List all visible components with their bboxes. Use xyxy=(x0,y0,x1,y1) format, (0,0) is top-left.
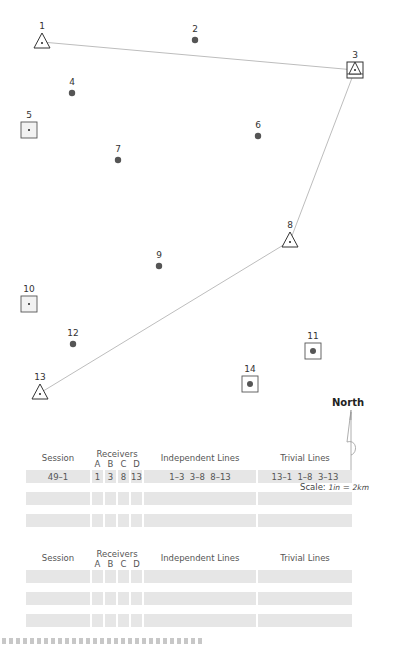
dot-marker-icon xyxy=(70,341,76,347)
cell-session: 49–1 xyxy=(26,470,90,483)
table-row: 49–1 1 3 8 13 1–3 3–8 8–13 13–1 1–8 3–13 xyxy=(26,470,352,483)
point-label: 7 xyxy=(115,144,121,154)
triangle-marker-icon xyxy=(34,33,50,48)
cell-c xyxy=(118,492,129,505)
session-table-1: Session Receivers Independent Lines Triv… xyxy=(24,445,354,527)
gps-network-map: 1234567891011121314 xyxy=(0,0,399,420)
point-label: 8 xyxy=(287,220,293,230)
table-row xyxy=(26,614,352,627)
cell-c: 8 xyxy=(118,470,129,483)
table-row xyxy=(26,514,352,527)
col-receivers: Receivers xyxy=(92,445,142,459)
cell-trivial xyxy=(258,492,352,505)
col-trivial-lines: Trivial Lines xyxy=(258,445,352,470)
cell-b xyxy=(105,514,116,527)
col-independent-lines: Independent Lines xyxy=(144,445,256,470)
cell-independent: 1–3 3–8 8–13 xyxy=(144,470,256,483)
col-receiver-b: B xyxy=(105,459,116,470)
point-label: 14 xyxy=(244,364,256,374)
point-3: 3 xyxy=(347,50,363,78)
cell-independent xyxy=(144,514,256,527)
point-label: 2 xyxy=(192,24,198,34)
cell-d xyxy=(131,514,142,527)
cell-a xyxy=(92,514,103,527)
cell-session xyxy=(26,514,90,527)
point-label: 6 xyxy=(255,120,261,130)
point-label: 5 xyxy=(26,110,32,120)
baseline-3-8 xyxy=(290,70,355,241)
col-receiver-c: C xyxy=(118,559,129,570)
scale-right: 2km xyxy=(353,483,369,492)
cell-c xyxy=(118,514,129,527)
point-7: 7 xyxy=(115,144,121,163)
table-row xyxy=(26,492,352,505)
point-label: 4 xyxy=(69,77,75,87)
dot-marker-icon xyxy=(156,263,162,269)
col-session: Session xyxy=(26,445,90,470)
point-8: 8 xyxy=(282,220,298,247)
point-label: 13 xyxy=(34,372,45,382)
cell-b xyxy=(105,492,116,505)
north-label: North xyxy=(332,397,364,408)
cell-independent xyxy=(144,492,256,505)
point-1: 1 xyxy=(34,21,50,48)
triangle-marker-icon xyxy=(282,232,298,247)
col-receiver-a: A xyxy=(92,459,103,470)
baseline-1-3 xyxy=(42,42,355,70)
col-independent-lines: Independent Lines xyxy=(144,545,256,570)
col-receiver-c: C xyxy=(118,459,129,470)
point-11: 11 xyxy=(305,331,321,359)
point-14: 14 xyxy=(242,364,258,392)
point-10: 10 xyxy=(21,284,37,312)
north-arrow-icon xyxy=(347,412,355,420)
col-receiver-d: D xyxy=(131,459,142,470)
col-receivers: Receivers xyxy=(92,545,142,559)
col-receiver-a: A xyxy=(92,559,103,570)
session-table-2: Session Receivers Independent Lines Triv… xyxy=(24,545,354,627)
col-session: Session xyxy=(26,545,90,570)
dot-marker-icon xyxy=(192,37,198,43)
col-trivial-lines: Trivial Lines xyxy=(258,545,352,570)
col-receiver-b: B xyxy=(105,559,116,570)
point-2: 2 xyxy=(192,24,198,43)
point-6: 6 xyxy=(255,120,261,139)
cell-a: 1 xyxy=(92,470,103,483)
cell-d xyxy=(131,492,142,505)
cropped-caption-fragment xyxy=(2,638,202,644)
point-label: 12 xyxy=(67,328,78,338)
point-label: 1 xyxy=(39,21,45,31)
survey-points: 1234567891011121314 xyxy=(21,21,363,399)
point-13: 13 xyxy=(32,372,48,399)
point-label: 11 xyxy=(307,331,318,341)
col-receiver-d: D xyxy=(131,559,142,570)
point-label: 10 xyxy=(23,284,35,294)
cell-trivial xyxy=(258,514,352,527)
point-label: 9 xyxy=(156,250,162,260)
table-row xyxy=(26,570,352,583)
point-label: 3 xyxy=(352,50,358,60)
cell-session xyxy=(26,492,90,505)
point-9: 9 xyxy=(156,250,162,269)
point-4: 4 xyxy=(69,77,75,96)
triangle-marker-icon xyxy=(32,384,48,399)
cell-b: 3 xyxy=(105,470,116,483)
table-row xyxy=(26,592,352,605)
dot-marker-icon xyxy=(69,90,75,96)
dot-marker-icon xyxy=(115,157,121,163)
dot-marker-icon xyxy=(255,133,261,139)
cell-trivial: 13–1 1–8 3–13 xyxy=(258,470,352,483)
point-12: 12 xyxy=(67,328,78,347)
cell-d: 13 xyxy=(131,470,142,483)
cell-a xyxy=(92,492,103,505)
point-5: 5 xyxy=(21,110,37,138)
